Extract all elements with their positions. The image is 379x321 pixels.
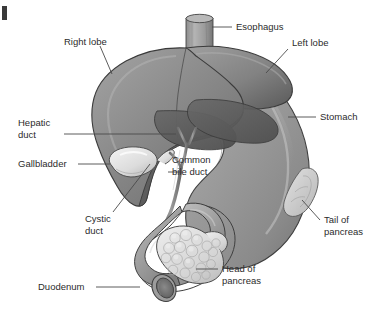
label-head-of-pancreas: Head of pancreas <box>222 263 261 286</box>
label-tail-of-pancreas-line1: Tail of <box>324 214 349 225</box>
label-esophagus: Esophagus <box>236 21 284 32</box>
label-tail-of-pancreas-line2: pancreas <box>324 226 363 237</box>
label-head-of-pancreas-line2: pancreas <box>222 275 261 286</box>
label-cystic-duct-line1: Cystic <box>85 213 111 224</box>
label-gallbladder: Gallbladder <box>18 158 67 169</box>
label-common-bile-duct: Common bile duct <box>172 154 211 177</box>
label-duodenum: Duodenum <box>38 281 85 292</box>
label-right-lobe: Right lobe <box>64 36 107 47</box>
label-cystic-duct: Cystic duct <box>85 213 111 236</box>
label-tail-of-pancreas: Tail of pancreas <box>324 214 363 237</box>
anatomy-figure: Esophagus Right lobe Left lobe Stomach H… <box>0 0 379 321</box>
anatomy-illustration: Esophagus Right lobe Left lobe Stomach H… <box>0 0 379 321</box>
label-common-bile-duct-line1: Common <box>172 154 211 165</box>
label-cystic-duct-line2: duct <box>85 225 103 236</box>
label-hepatic-duct-line2: duct <box>18 129 36 140</box>
label-left-lobe: Left lobe <box>292 37 328 48</box>
label-stomach: Stomach <box>320 111 358 122</box>
label-hepatic-duct: Hepatic duct <box>18 117 50 140</box>
leader-right-lobe <box>100 46 112 74</box>
label-hepatic-duct-line1: Hepatic <box>18 117 50 128</box>
label-common-bile-duct-line2: bile duct <box>172 166 208 177</box>
label-head-of-pancreas-line1: Head of <box>222 263 256 274</box>
crop-mark <box>2 6 7 20</box>
